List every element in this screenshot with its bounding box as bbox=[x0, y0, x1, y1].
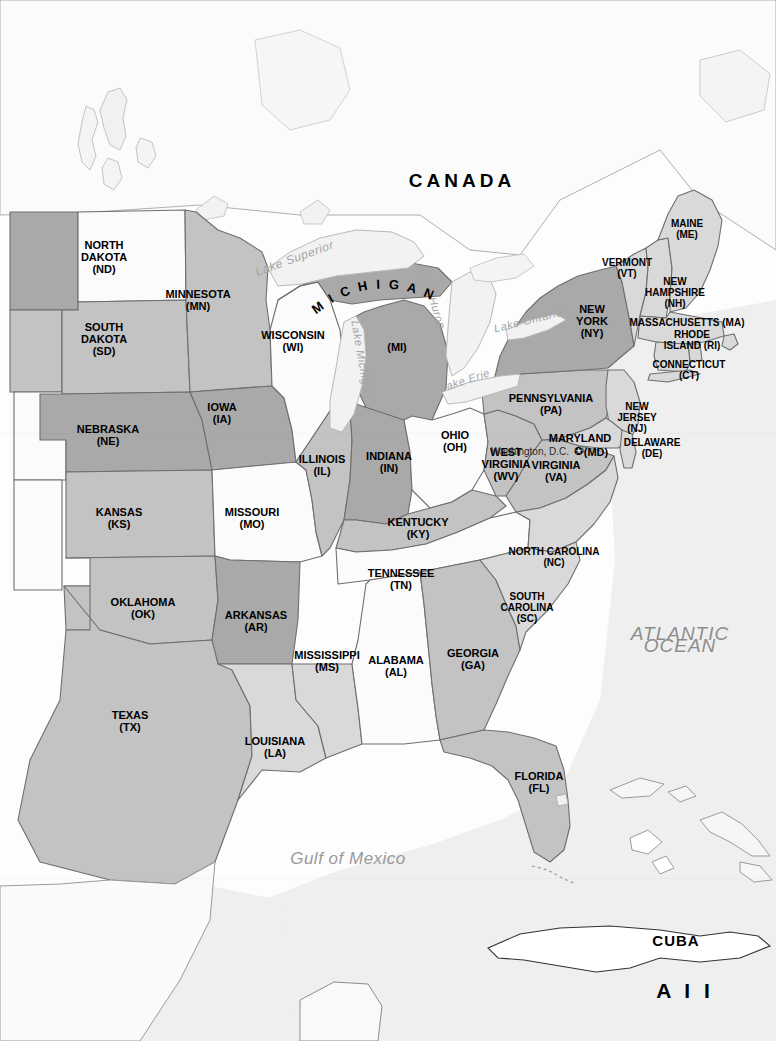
state-MO bbox=[212, 462, 322, 562]
state-AR bbox=[212, 556, 300, 664]
state-NE bbox=[40, 392, 212, 472]
us-reference-map: .st{stroke:#6e6e6e;stroke-width:1.1;stro… bbox=[0, 0, 776, 1041]
state-KS bbox=[66, 470, 215, 558]
state-WY-partial bbox=[10, 310, 62, 392]
state-ND bbox=[78, 210, 186, 302]
state-SD bbox=[62, 300, 190, 394]
state-CT bbox=[654, 342, 690, 372]
state-MT-partial bbox=[10, 212, 78, 310]
district-of-columbia bbox=[576, 446, 584, 454]
lake-okeechobee bbox=[556, 794, 568, 806]
state-NM-partial bbox=[14, 480, 62, 590]
map-canvas: .st{stroke:#6e6e6e;stroke-width:1.1;stro… bbox=[0, 0, 776, 1041]
state-IN bbox=[344, 404, 412, 524]
